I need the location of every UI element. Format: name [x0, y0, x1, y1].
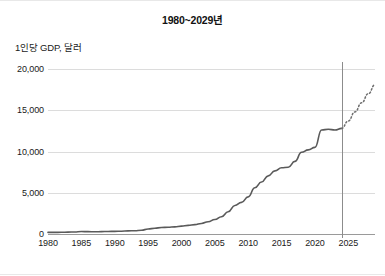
x-tick-label: 2010	[238, 238, 258, 248]
series-layer	[0, 0, 385, 276]
x-tick-label: 1990	[105, 238, 125, 248]
series-line-actual	[48, 128, 342, 232]
x-tick-label: 1980	[38, 238, 58, 248]
series-line-forecast	[342, 85, 375, 129]
x-tick-label: 2005	[205, 238, 225, 248]
x-axis-tick-labels: 1980198519901995200020052010201520202025	[0, 238, 385, 254]
chart-figure: 1980~2029년 1인당 GDP, 달러 05,00010,00015,00…	[0, 0, 385, 276]
x-tick-label: 2015	[272, 238, 292, 248]
x-tick-label: 1985	[72, 238, 92, 248]
x-tick-label: 2000	[172, 238, 192, 248]
x-tick-label: 2020	[305, 238, 325, 248]
x-tick-label: 2025	[338, 238, 358, 248]
x-tick-label: 1995	[138, 238, 158, 248]
